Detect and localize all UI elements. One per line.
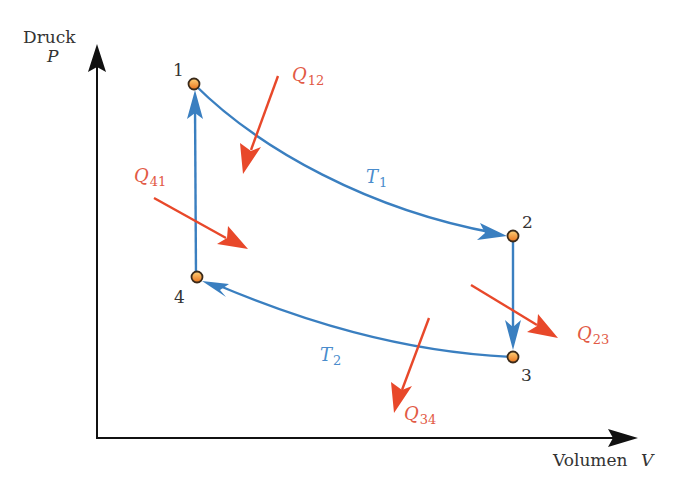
arrow-q23-icon: [527, 314, 558, 338]
heat-q23-label: Q23: [577, 323, 609, 347]
state-point-4: [192, 272, 203, 283]
heat-q41-label: Q41: [134, 165, 166, 189]
heat-arrow-q34: [391, 318, 429, 413]
isochore-41-path: [195, 104, 196, 277]
state-point-2-label: 2: [522, 212, 533, 232]
state-point-2: [508, 231, 519, 242]
state-point-1: [189, 79, 200, 90]
isotherm-t1-path: [194, 84, 495, 233]
state-point-4-label: 4: [174, 287, 185, 307]
heat-q34-label: Q34: [404, 403, 436, 427]
heat-q12-label: Q12: [292, 64, 324, 88]
axes: [88, 44, 638, 447]
process-paths: [194, 84, 513, 357]
state-point-3-label: 3: [521, 365, 532, 385]
process-arrowheads: [187, 90, 521, 350]
isotherm-t2-path: [215, 284, 513, 357]
arrow-q41-icon: [217, 226, 248, 249]
y-axis-symbol: P: [46, 46, 59, 66]
isotherm-t1-label: T1: [366, 166, 387, 190]
state-point-3: [508, 352, 519, 363]
heat-arrow-q12: [240, 76, 278, 174]
arrow-q12-icon: [240, 143, 261, 174]
heat-arrow-q41: [154, 198, 248, 249]
stirling-cycle-diagram: Druck P Volumen V: [0, 0, 692, 482]
x-axis-label: Volumen: [552, 450, 628, 470]
heat-flow-arrows: [154, 76, 558, 413]
state-point-1-label: 1: [173, 60, 184, 80]
y-axis-label: Druck: [23, 27, 76, 47]
isotherm-t2-label: T2: [320, 344, 341, 368]
x-axis-symbol: V: [641, 450, 655, 470]
